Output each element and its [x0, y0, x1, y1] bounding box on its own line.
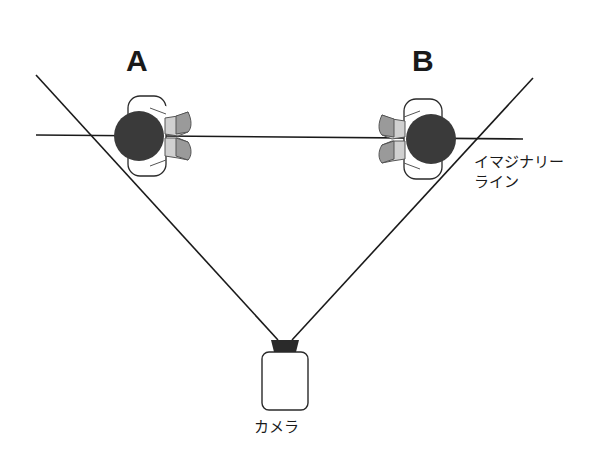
imaginary-line-label: イマジナリー ライン [474, 152, 564, 192]
diagram-canvas [0, 0, 605, 462]
subject-a-label: A [126, 44, 148, 78]
camera-figure [262, 340, 308, 410]
imaginary-line-label-line1: イマジナリー [474, 152, 564, 172]
camera-label: カメラ [254, 417, 299, 437]
subject-b-label: B [412, 44, 434, 78]
person-b-figure [379, 99, 456, 179]
imaginary-line-label-line2: ライン [474, 172, 564, 192]
